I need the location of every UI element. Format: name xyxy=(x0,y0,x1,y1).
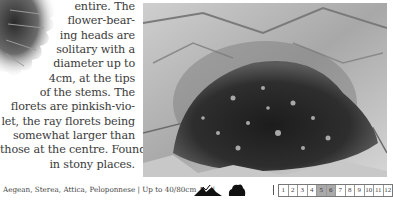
text-line: of the stems. The xyxy=(0,86,135,100)
month-cell: 11 xyxy=(374,185,384,196)
text-line: florets are pinkish-vio- xyxy=(0,100,135,114)
text-line: solitary with a xyxy=(0,43,135,57)
month-cell: 9 xyxy=(355,185,365,196)
month-cell: 4 xyxy=(308,185,318,196)
text-line: somewhat larger than xyxy=(0,129,135,143)
distribution-text: Aegean, Sterea, Attica, Peloponnese xyxy=(3,185,135,194)
text-line: ing heads are xyxy=(0,29,135,43)
month-cell-flowering: 6 xyxy=(327,185,337,196)
month-cell: 1 xyxy=(279,185,289,196)
distribution-and-height: Aegean, Sterea, Attica, Peloponnese | Up… xyxy=(3,185,215,194)
plant-photo xyxy=(143,3,387,177)
divider xyxy=(273,185,274,195)
flowering-calendar: 1 2 3 4 5 6 7 8 9 10 11 12 xyxy=(278,184,393,197)
separator: | xyxy=(137,185,139,194)
month-cell: 8 xyxy=(346,185,356,196)
text-line: 4cm, at the tips xyxy=(0,72,135,86)
text-line: entire. The xyxy=(0,0,135,14)
mountain-icon xyxy=(194,184,222,196)
description-text: entire. The flower-bear- ing heads are s… xyxy=(0,0,135,172)
month-cell: 2 xyxy=(289,185,299,196)
text-line: in stony places. xyxy=(0,158,135,172)
text-line: those at the centre. Found xyxy=(0,143,135,157)
height-text: Up to 40/80cm xyxy=(142,185,196,194)
text-line: diameter up to xyxy=(0,57,135,71)
text-line: flower-bear- xyxy=(0,14,135,28)
month-cell: 10 xyxy=(365,185,375,196)
month-cell: 7 xyxy=(336,185,346,196)
footer-info-bar: Aegean, Sterea, Attica, Peloponnese | Up… xyxy=(0,182,387,198)
month-cell: 12 xyxy=(384,185,393,196)
text-line: let, the ray florets being xyxy=(0,115,135,129)
month-cell: 3 xyxy=(298,185,308,196)
shrub-icon xyxy=(228,183,246,196)
month-cell-flowering: 5 xyxy=(317,185,327,196)
